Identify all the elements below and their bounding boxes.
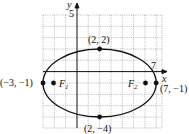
focus-2-label: F2 bbox=[127, 78, 138, 91]
vertex-bottom bbox=[97, 115, 102, 120]
ellipse-diagram: y 5 x 7 (2, 2) (2, −4) (−3, −1) (7, −1) … bbox=[0, 0, 189, 134]
vertex-top bbox=[97, 47, 102, 52]
label-top: (2, 2) bbox=[88, 34, 110, 46]
y-arrow-icon bbox=[75, 3, 79, 8]
label-left: (−3, −1) bbox=[0, 77, 33, 89]
focus-2 bbox=[143, 81, 148, 86]
vertex-left bbox=[41, 81, 46, 86]
focus-1-label: F1 bbox=[58, 78, 69, 91]
vertex-right bbox=[154, 81, 159, 86]
y-tick-label: 5 bbox=[69, 8, 74, 19]
label-bottom: (2, −4) bbox=[84, 123, 111, 134]
label-right: (7, −1) bbox=[160, 83, 187, 95]
focus-1 bbox=[51, 81, 56, 86]
x-tick-label: 7 bbox=[151, 60, 156, 71]
